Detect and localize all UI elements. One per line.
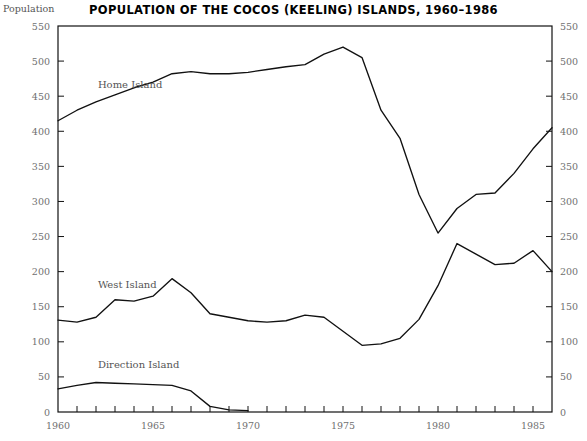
svg-text:200: 200 (32, 266, 50, 277)
chart-container: POPULATION OF THE COCOS (KEELING) ISLAND… (0, 0, 587, 441)
svg-text:1960: 1960 (46, 420, 70, 431)
svg-text:350: 350 (32, 161, 50, 172)
plot-area: 050100150200250300350400450500550 050100… (0, 0, 587, 441)
svg-text:250: 250 (32, 231, 50, 242)
svg-text:50: 50 (560, 371, 572, 382)
svg-text:400: 400 (32, 126, 50, 137)
svg-text:1965: 1965 (141, 420, 165, 431)
svg-text:350: 350 (560, 161, 578, 172)
svg-text:550: 550 (560, 21, 578, 32)
svg-text:300: 300 (32, 196, 50, 207)
x-axis-ticks: 196019651970197519801985 (46, 406, 545, 431)
series-label: Direction Island (98, 359, 180, 370)
svg-text:1985: 1985 (521, 420, 545, 431)
svg-text:450: 450 (560, 91, 578, 102)
svg-text:150: 150 (32, 301, 50, 312)
svg-text:1970: 1970 (236, 420, 260, 431)
svg-text:550: 550 (32, 21, 50, 32)
svg-text:400: 400 (560, 126, 578, 137)
series-inline-labels: Home IslandWest IslandDirection Island (98, 79, 180, 370)
series-lines (58, 47, 552, 411)
y-axis-left-ticks: 050100150200250300350400450500550 (32, 21, 64, 418)
svg-text:150: 150 (560, 301, 578, 312)
svg-text:500: 500 (32, 56, 50, 67)
svg-text:1975: 1975 (331, 420, 355, 431)
svg-text:1980: 1980 (426, 420, 450, 431)
y-axis-right-ticks: 050100150200250300350400450500550 (546, 21, 578, 418)
svg-text:450: 450 (32, 91, 50, 102)
series-label: West Island (98, 279, 157, 290)
svg-text:50: 50 (38, 371, 50, 382)
svg-text:0: 0 (560, 407, 566, 418)
series-label: Home Island (98, 79, 163, 90)
svg-text:0: 0 (44, 407, 50, 418)
svg-text:200: 200 (560, 266, 578, 277)
svg-text:500: 500 (560, 56, 578, 67)
svg-text:100: 100 (32, 336, 50, 347)
svg-text:100: 100 (560, 336, 578, 347)
svg-text:250: 250 (560, 231, 578, 242)
svg-text:300: 300 (560, 196, 578, 207)
